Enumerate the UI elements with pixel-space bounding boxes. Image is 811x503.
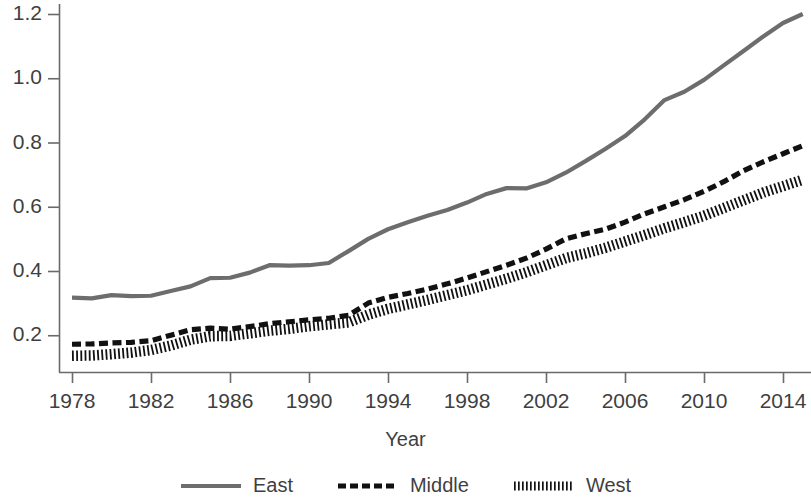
legend-swatch-west xyxy=(513,479,575,493)
y-tick-marks xyxy=(48,15,59,336)
chart-legend: East Middle West xyxy=(0,474,811,497)
x-axis-title: Year xyxy=(0,428,811,451)
y-tick-label: 0.4 xyxy=(0,258,42,282)
y-tick-label: 0.6 xyxy=(0,194,42,218)
legend-item-west[interactable]: West xyxy=(513,474,631,497)
series-line-east xyxy=(72,14,803,298)
legend-item-east[interactable]: East xyxy=(180,474,293,497)
legend-label-middle: Middle xyxy=(410,474,469,497)
legend-label-east: East xyxy=(253,474,293,497)
axes-lines xyxy=(59,4,811,373)
legend-swatch-middle xyxy=(337,479,399,493)
line-chart-figure: 0.20.40.60.81.01.2 197819821986199019941… xyxy=(0,0,811,503)
legend-item-middle[interactable]: Middle xyxy=(337,474,469,497)
legend-label-west: West xyxy=(586,474,631,497)
y-tick-label: 1.0 xyxy=(0,65,42,89)
series-line-west xyxy=(72,180,803,356)
y-tick-label: 1.2 xyxy=(0,1,42,25)
data-series-group xyxy=(72,14,803,356)
series-line-middle xyxy=(72,146,803,345)
legend-swatch-east xyxy=(180,479,242,493)
x-tick-marks xyxy=(73,372,784,383)
y-tick-label: 0.8 xyxy=(0,130,42,154)
y-tick-label: 0.2 xyxy=(0,322,42,346)
x-tick-label: 2014 xyxy=(733,389,811,413)
